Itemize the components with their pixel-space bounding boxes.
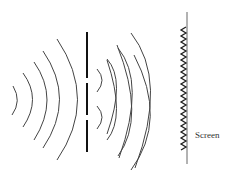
upper-wave-4	[131, 33, 151, 168]
interference-pattern	[181, 27, 186, 150]
diffracted-waves-upper	[97, 33, 151, 168]
screen-label: Screen	[195, 130, 220, 140]
upper-wave-3	[118, 48, 132, 158]
lower-wave-2	[107, 60, 117, 140]
incident-wave-5	[57, 39, 78, 160]
upper-wave-1	[97, 69, 102, 92]
lower-wave-3	[117, 45, 132, 156]
diffracted-waves-lower	[97, 45, 150, 170]
lower-wave-1	[97, 106, 102, 129]
double-slit-diagram: Screen	[0, 0, 234, 172]
incident-wave-2	[23, 73, 33, 127]
incident-wave-4	[43, 51, 60, 148]
incident-wave-1	[12, 86, 17, 115]
incident-wave-3	[34, 62, 47, 140]
incident-waves	[12, 39, 78, 160]
